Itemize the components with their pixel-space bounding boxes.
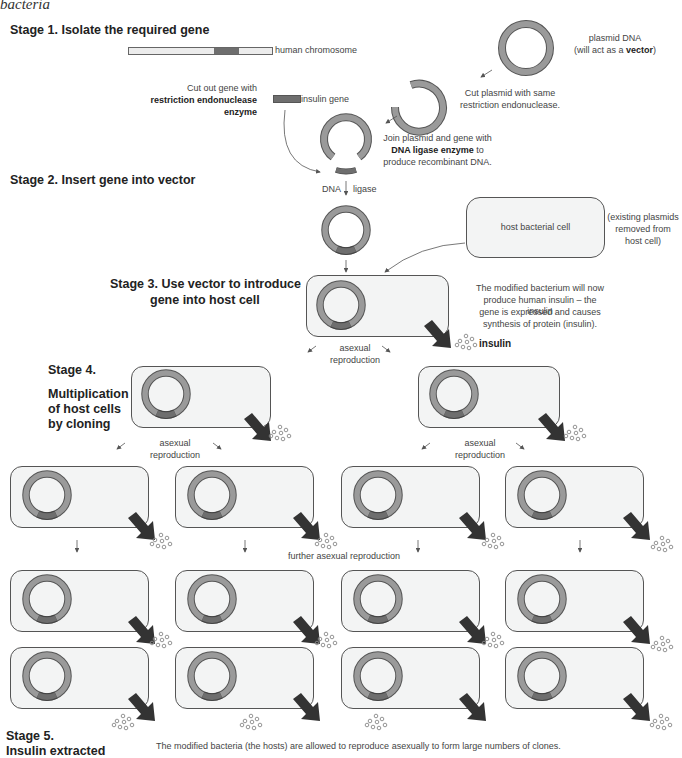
arrow-icon [382,346,390,352]
plasmid-in-cell-icon [433,373,475,415]
arrow-icon [308,346,316,352]
plasmid-in-cell-icon [191,578,233,620]
insulin-molecules-icon [365,714,387,730]
insulin-output-arrow-icon [459,616,486,644]
insulin-molecules-icon [651,536,673,552]
plasmid-in-cell-icon [145,373,187,415]
plasmid-in-cell-icon [357,474,399,516]
insulin-output-arrow-icon [538,413,565,441]
insulin-output-arrow-icon [128,512,155,540]
insulin-molecules-icon [564,425,586,441]
cut-plasmid-icon [97,72,443,132]
insulin-output-arrow-icon [459,512,486,540]
insulin-molecules-icon [240,714,262,730]
arrow-icon [117,443,125,449]
insulin-molecules-icon [482,632,504,648]
arrow-icon [516,443,524,449]
plasmid-in-cell-icon [26,474,68,516]
insulin-output-arrow-icon [459,693,486,721]
plasmid-in-cell-icon [357,655,399,697]
insulin-output-arrow-icon [424,320,451,348]
plasmid-in-cell-icon [521,474,563,516]
plasmid-in-cell-icon [357,578,399,620]
insulin-molecules-icon [455,334,477,350]
insulin-output-arrow-icon [623,512,650,540]
insulin-output-arrow-icon [623,693,650,721]
plasmid-in-cell-icon [320,284,362,326]
plasmid-in-cell-icon [26,578,68,620]
insulin-molecules-icon [651,636,673,652]
insulin-output-arrow-icon [244,413,271,441]
curved-arrow-icon [284,110,320,172]
plasmid-in-cell-icon [521,655,563,697]
plasmid-in-cell-icon [191,655,233,697]
recombinant-plasmid-icon [325,209,367,251]
curved-arrow-icon [385,243,465,272]
arrow-icon [213,443,221,449]
insulin-molecules-icon [650,714,672,730]
arrow-icon [481,70,492,77]
insulin-output-arrow-icon [293,512,320,540]
plasmid-in-cell-icon [191,474,233,516]
insulin-output-arrow-icon [623,616,650,644]
insulin-molecules-icon [269,425,291,441]
plasmid-in-cell-icon [26,655,68,697]
insulin-output-arrow-icon [293,616,320,644]
insulin-output-arrow-icon [128,693,155,721]
plasmid-dna-icon [502,24,550,72]
open-plasmid-with-gene-icon [324,117,368,171]
insulin-output-arrow-icon [293,693,320,721]
insulin-output-arrow-icon [128,616,155,644]
plasmid-in-cell-icon [521,578,563,620]
arrow-icon [422,443,430,449]
insulin-molecules-icon [112,714,134,730]
